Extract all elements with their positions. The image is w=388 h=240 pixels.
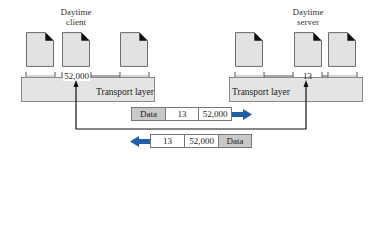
response-direction-arrow-icon: [130, 136, 150, 147]
request-direction-arrow-icon: [232, 109, 252, 120]
response-src-port-cell: 13: [150, 134, 185, 148]
client-arrowhead-icon: [74, 80, 79, 87]
server-arrowhead-icon: [304, 80, 309, 87]
request-src-port-cell: 52,000: [198, 107, 232, 121]
request-data-cell: Data: [131, 107, 166, 121]
request-dest-port-cell: 13: [165, 107, 199, 121]
response-data-cell: Data: [218, 134, 252, 148]
response-dest-port-cell: 52,000: [184, 134, 219, 148]
